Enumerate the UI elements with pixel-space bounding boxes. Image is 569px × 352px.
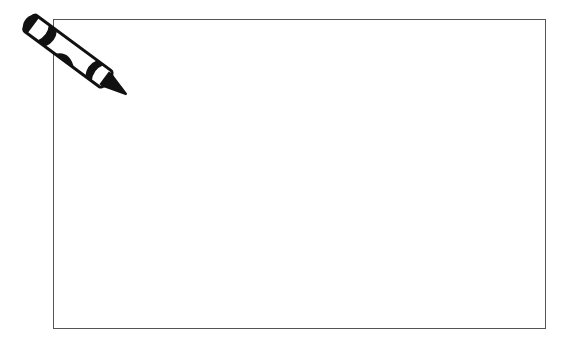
crayon-icon <box>0 0 160 120</box>
